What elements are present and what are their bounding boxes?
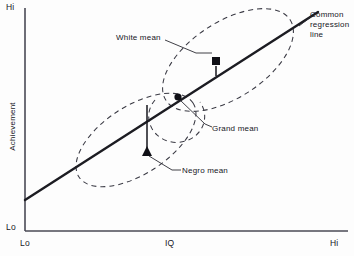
white-mean-square-marker — [212, 57, 220, 65]
white-mean-leader-line — [165, 40, 212, 53]
negro-mean-leader-line — [149, 156, 181, 170]
common-label-line-2: regression — [310, 20, 349, 30]
white-group-ellipse — [145, 0, 311, 132]
grand-mean-circle-marker — [174, 93, 181, 100]
x-axis-title: IQ — [165, 238, 174, 248]
white-mean-label: White mean — [116, 33, 161, 42]
y-axis-high-label: Hi — [6, 2, 14, 12]
common-regression-line-label: Common regression line — [310, 10, 349, 40]
regression-figure: Hi Lo Lo IQ Hi Achievement White mean Gr… — [0, 0, 354, 256]
negro-mean-label: Negro mean — [182, 166, 228, 175]
y-axis-title: Achievement — [8, 96, 17, 158]
figure-canvas — [0, 0, 354, 256]
grand-mean-arc — [149, 100, 205, 142]
y-axis-low-label: Lo — [6, 222, 16, 232]
common-label-line-3: line — [310, 30, 349, 40]
x-axis-low-label: Lo — [20, 238, 30, 248]
negro-mean-triangle-marker — [142, 146, 152, 156]
common-regression-line — [25, 12, 318, 200]
common-label-line-1: Common — [310, 10, 349, 20]
x-axis-high-label: Hi — [330, 238, 338, 248]
grand-mean-label: Grand mean — [212, 124, 258, 133]
